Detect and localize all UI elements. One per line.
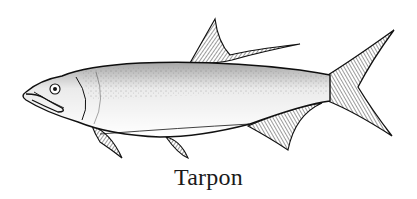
caudal-fin [328,30,394,136]
figure-caption: Tarpon [0,164,417,191]
dorsal-fin [190,19,300,63]
pelvic-fin [166,137,188,158]
tarpon-illustration [0,0,417,165]
